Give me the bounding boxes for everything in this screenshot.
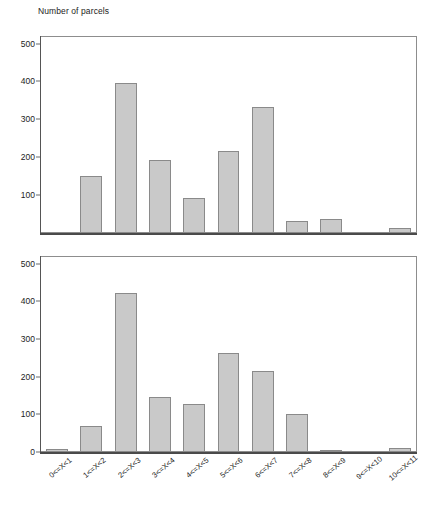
- bar-10__X_11[interactable]: [389, 228, 411, 233]
- bar-slot: [348, 256, 382, 452]
- bar-slot: [314, 36, 348, 233]
- bar-4__X_5[interactable]: [183, 404, 205, 452]
- x-label-slot: 10<=X<11: [383, 462, 417, 505]
- chart-page: Number of parcels 100200300400500 010020…: [0, 0, 423, 505]
- x-axis-top: [40, 233, 417, 235]
- bar-6__X_7[interactable]: [252, 107, 274, 233]
- bar-slot: [143, 256, 177, 452]
- x-label-slot: 7<=X<8: [280, 462, 314, 505]
- x-axis-bottom: [40, 452, 417, 454]
- bar-slot: [40, 36, 74, 233]
- bar-2__X_3[interactable]: [115, 293, 137, 452]
- bar-slot: [74, 256, 108, 452]
- bar-slot: [211, 36, 245, 233]
- bar-slot: [74, 36, 108, 233]
- y-tick-label: 500: [21, 259, 40, 269]
- bar-1__X_2[interactable]: [80, 426, 102, 452]
- bar-slot: [280, 36, 314, 233]
- bar-3__X_4[interactable]: [149, 397, 171, 452]
- y-tick-label: 400: [21, 76, 40, 86]
- bar-slot: [109, 256, 143, 452]
- page-title: Number of parcels: [38, 6, 109, 16]
- y-tick-label: 200: [21, 152, 40, 162]
- x-label-slot: 9<=X<10: [348, 462, 382, 505]
- bar-0__X_1[interactable]: [46, 449, 68, 452]
- y-tick-label: 400: [21, 296, 40, 306]
- bar-4__X_5[interactable]: [183, 198, 205, 233]
- bar-6__X_7[interactable]: [252, 371, 274, 452]
- x-label-slot: 5<=X<6: [211, 462, 245, 505]
- bar-slot: [211, 256, 245, 452]
- x-axis-labels: 0<=X<11<=X<22<=X<33<=X<44<=X<55<=X<66<=X…: [40, 462, 417, 505]
- bar-slot: [246, 36, 280, 233]
- x-label-slot: 8<=X<9: [314, 462, 348, 505]
- bar-slot: [314, 256, 348, 452]
- bar-group-bottom: [40, 256, 417, 452]
- bar-slot: [383, 36, 417, 233]
- bar-8__X_9[interactable]: [320, 219, 342, 233]
- x-label-slot: 4<=X<5: [177, 462, 211, 505]
- bar-slot: [348, 36, 382, 233]
- bar-3__X_4[interactable]: [149, 160, 171, 233]
- bar-slot: [246, 256, 280, 452]
- bar-7__X_8[interactable]: [286, 221, 308, 233]
- bar-5__X_6[interactable]: [218, 353, 240, 452]
- bar-2__X_3[interactable]: [115, 83, 137, 233]
- y-tick-label: 100: [21, 190, 40, 200]
- bar-slot: [177, 256, 211, 452]
- x-label-slot: 3<=X<4: [143, 462, 177, 505]
- bar-slot: [383, 256, 417, 452]
- bar-8__X_9[interactable]: [320, 450, 342, 452]
- x-label-slot: 0<=X<1: [40, 462, 74, 505]
- top-panel: 100200300400500: [0, 22, 423, 244]
- bar-slot: [143, 36, 177, 233]
- bar-5__X_6[interactable]: [218, 151, 240, 233]
- y-tick-label: 100: [21, 409, 40, 419]
- y-tick-label: 300: [21, 114, 40, 124]
- y-tick-label: 200: [21, 372, 40, 382]
- bar-slot: [280, 256, 314, 452]
- bar-slot: [177, 36, 211, 233]
- y-tick-label: 500: [21, 39, 40, 49]
- bottom-panel: 0100200300400500: [0, 246, 423, 461]
- bar-slot: [109, 36, 143, 233]
- bar-7__X_8[interactable]: [286, 414, 308, 452]
- bar-10__X_11[interactable]: [389, 448, 411, 452]
- x-label-slot: 6<=X<7: [246, 462, 280, 505]
- x-label-slot: 1<=X<2: [74, 462, 108, 505]
- y-tick-label: 0: [30, 447, 40, 457]
- y-tick-label: 300: [21, 334, 40, 344]
- bar-1__X_2[interactable]: [80, 176, 102, 233]
- bar-slot: [40, 256, 74, 452]
- x-label-slot: 2<=X<3: [109, 462, 143, 505]
- bar-group-top: [40, 36, 417, 233]
